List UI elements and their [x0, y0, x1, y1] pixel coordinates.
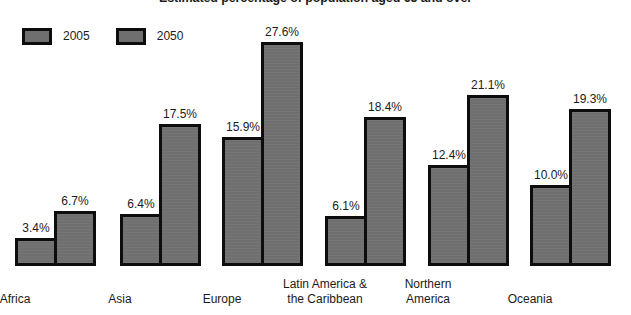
bar-value-label: 19.3%	[573, 93, 607, 105]
bar-latin-america-2050: 18.4%	[364, 101, 406, 266]
bar-value-label: 6.1%	[332, 200, 359, 212]
bar-rect	[261, 42, 303, 266]
bar-value-label: 17.5%	[163, 108, 197, 120]
bar-latin-america-2005: 6.1%	[325, 200, 367, 266]
category-label-oceania: Oceania	[450, 292, 610, 307]
plot-area: 3.4% 6.7% Africa 6.4% 17.5%	[0, 0, 631, 315]
bar-value-label: 15.9%	[226, 121, 260, 133]
bar-chart: Estimated percentage of population aged …	[0, 0, 631, 315]
bar-value-label: 21.1%	[471, 79, 505, 91]
bar-rect	[569, 109, 611, 266]
bar-asia-2050: 17.5%	[159, 108, 201, 266]
bar-value-label: 18.4%	[368, 101, 402, 113]
bar-rect	[325, 216, 367, 266]
bar-rect	[222, 137, 264, 266]
bar-rect	[467, 95, 509, 266]
bar-africa-2050: 6.7%	[54, 195, 96, 266]
bar-rect	[428, 165, 470, 266]
bar-asia-2005: 6.4%	[120, 198, 162, 266]
bar-rect	[530, 185, 572, 266]
bar-value-label: 27.6%	[265, 26, 299, 38]
bar-oceania-2005: 10.0%	[530, 169, 572, 266]
bar-europe-2050: 27.6%	[261, 26, 303, 266]
bar-rect	[15, 238, 57, 266]
category-label-line1: Oceania	[450, 292, 610, 307]
bar-africa-2005: 3.4%	[15, 222, 57, 266]
bar-rect	[159, 124, 201, 266]
bar-northern-america-2050: 21.1%	[467, 79, 509, 266]
bar-value-label: 3.4%	[22, 222, 49, 234]
bar-oceania-2050: 19.3%	[569, 93, 611, 266]
bar-europe-2005: 15.9%	[222, 121, 264, 266]
bar-value-label: 6.4%	[127, 198, 154, 210]
bar-value-label: 12.4%	[432, 149, 466, 161]
bar-northern-america-2005: 12.4%	[428, 149, 470, 266]
bar-rect	[54, 211, 96, 266]
bar-value-label: 6.7%	[61, 195, 88, 207]
bar-rect	[120, 214, 162, 266]
bar-value-label: 10.0%	[534, 169, 568, 181]
category-label-line1: Northern	[348, 277, 508, 292]
bar-rect	[364, 117, 406, 266]
